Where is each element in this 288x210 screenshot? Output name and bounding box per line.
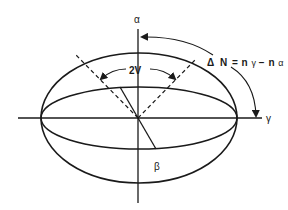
delta-arrow-to-gamma	[231, 67, 256, 116]
2v-arrow-right	[150, 69, 175, 79]
optic-axis-right	[138, 60, 195, 118]
alpha-label: α	[134, 14, 140, 25]
delta-n-equation: Δ N = n γ − n α	[207, 57, 284, 68]
2v-arrow-left	[101, 69, 126, 79]
indicatrix-diagram: α γ β 2V Δ N = n γ − n α	[0, 0, 288, 210]
beta-label: β	[154, 161, 160, 172]
gamma-label: γ	[266, 113, 271, 124]
optic-angle-label: 2V	[129, 65, 142, 76]
delta-arrow-to-alpha	[142, 37, 213, 55]
